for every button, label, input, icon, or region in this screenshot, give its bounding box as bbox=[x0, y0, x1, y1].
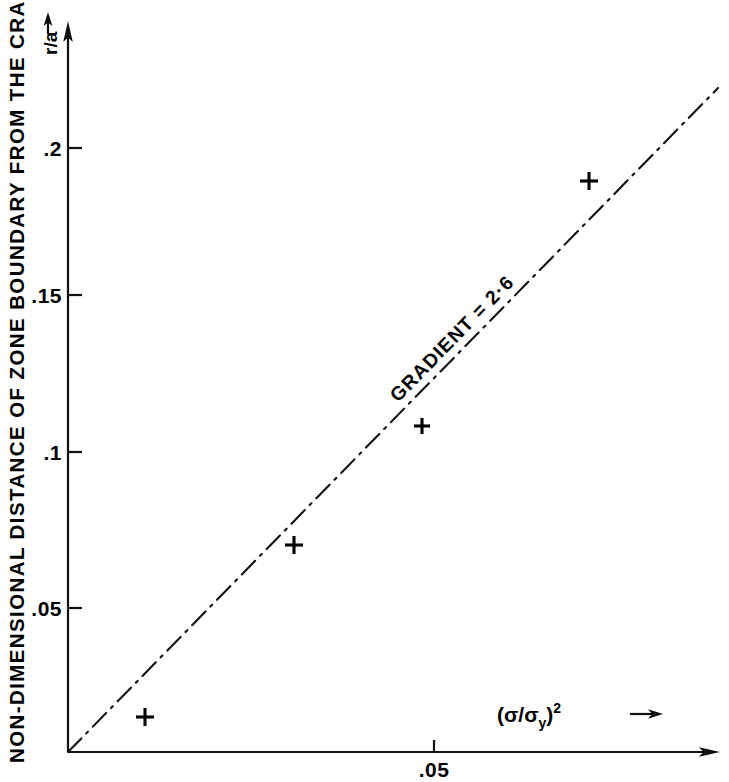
y-axis-title: NON-DIMENSIONAL DISTANCE OF ZONE BOUNDAR… bbox=[5, 0, 28, 763]
y-axis-symbol: r/a bbox=[40, 31, 61, 55]
gradient-annotation: GRADIENT = 2·6 bbox=[385, 271, 518, 406]
y-axis-group: .2 .15 .1 .05 bbox=[31, 21, 82, 752]
y-tick-label-0.05: .05 bbox=[31, 597, 62, 620]
data-point-1 bbox=[136, 708, 154, 726]
x-axis-title-group: (σ/σy)2 bbox=[497, 700, 663, 731]
x-tick-label-0.05: .05 bbox=[419, 758, 450, 781]
y-tick-label-0.1: .1 bbox=[43, 441, 62, 464]
y-axis-symbol-group: r/a bbox=[40, 12, 61, 55]
x-axis-group: .05 bbox=[68, 740, 720, 781]
data-point-3 bbox=[414, 418, 430, 434]
fit-line bbox=[68, 88, 718, 752]
x-axis-title-close: ) bbox=[546, 703, 553, 726]
x-axis-title: (σ/σy)2 bbox=[497, 700, 561, 731]
data-point-4 bbox=[580, 172, 598, 190]
figure-container: .2 .15 .1 .05 NON-DIMENSIONAL DISTANCE O… bbox=[0, 0, 729, 782]
data-series-measured bbox=[136, 172, 598, 726]
x-axis-title-base: (σ/σ bbox=[497, 703, 539, 726]
x-axis-title-sup: 2 bbox=[553, 700, 561, 716]
y-tick-label-0.15: .15 bbox=[31, 284, 62, 307]
x-axis-title-sub: y bbox=[539, 715, 547, 731]
y-tick-label-0.2: .2 bbox=[43, 137, 62, 160]
data-point-2 bbox=[285, 536, 303, 554]
scatter-plot: .2 .15 .1 .05 NON-DIMENSIONAL DISTANCE O… bbox=[0, 0, 729, 782]
